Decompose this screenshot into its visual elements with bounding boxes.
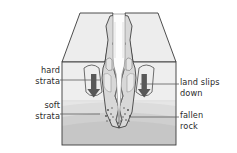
top-surface-right [125, 13, 176, 62]
right-plateau-top [125, 13, 176, 62]
label-land-slips-down: land slips down [180, 77, 236, 98]
label-hard-strata: hard strata [2, 65, 60, 86]
label-fallen-rock: fallen rock [180, 110, 236, 131]
top-surface-left [62, 13, 113, 62]
left-plateau-top [62, 13, 113, 62]
gorge-formation-diagram: hard strata soft strata land slips down … [0, 0, 237, 153]
label-soft-strata: soft strata [2, 100, 60, 121]
